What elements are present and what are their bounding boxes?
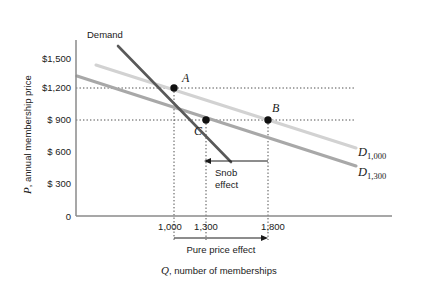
y-axis-title-rest: , annual membership price — [22, 75, 33, 187]
y-tick-1500: $1,500 — [42, 53, 71, 64]
y-tick-900: $ 900 — [47, 114, 71, 125]
origin-label: 0 — [66, 211, 71, 222]
snob-effect-label-line1: Snob — [215, 167, 237, 178]
x-axis-title-italic: Q — [161, 264, 169, 276]
y-axis-title: P, annual membership price — [21, 75, 33, 195]
x-tick-1800: 1,800 — [261, 221, 285, 232]
point-marker-a[interactable] — [170, 84, 177, 91]
point-label-c: C — [194, 124, 203, 138]
y-tick-1200: $1,200 — [42, 82, 71, 93]
demand-curve-label: Demand — [87, 29, 123, 40]
d1000-sub: 1,000 — [367, 151, 386, 161]
point-label-b: B — [272, 101, 280, 115]
x-axis-title-rest: , number of memberships — [169, 265, 277, 276]
y-tick-300: $ 300 — [47, 178, 71, 189]
economics-demand-chart: A C B Demand D 1,000 D 1,300 $1,500 $1,2… — [0, 0, 424, 295]
d1300-base: D — [357, 165, 367, 179]
point-label-a: A — [181, 71, 190, 85]
x-axis-title: Q, number of memberships — [161, 264, 277, 276]
figure-container: A C B Demand D 1,000 D 1,300 $1,500 $1,2… — [0, 0, 424, 295]
point-marker-b[interactable] — [264, 116, 271, 123]
svg-text:Q, number of memberships: Q, number of memberships — [161, 264, 277, 276]
svg-text:P, annual membership price: P, annual membership price — [21, 75, 33, 195]
y-tick-600: $ 600 — [47, 146, 71, 157]
pure-price-effect-annotation: Pure price effect — [174, 235, 268, 255]
point-marker-c[interactable] — [202, 116, 209, 123]
x-tick-1000: 1,000 — [158, 221, 182, 232]
d1000-base: D — [357, 145, 367, 159]
pure-price-effect-label: Pure price effect — [186, 244, 255, 255]
x-tick-1300: 1,300 — [194, 221, 218, 232]
d1300-sub: 1,300 — [367, 171, 386, 181]
snob-effect-label-line2: effect — [215, 179, 238, 190]
